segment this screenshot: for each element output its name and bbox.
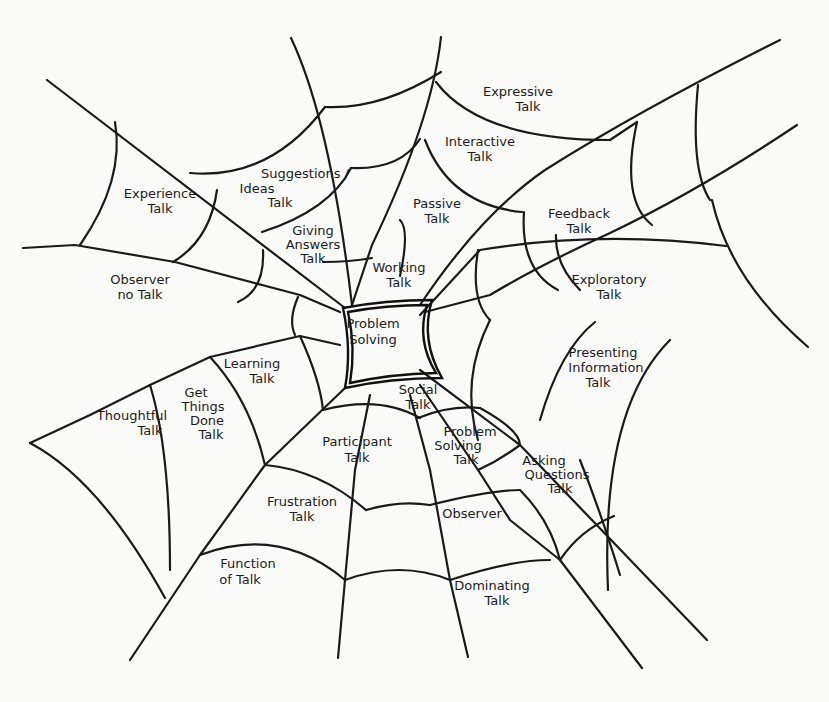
label-experience-talk: ExperienceTalk — [124, 186, 197, 216]
label-get-things-done-talk: GetThingsDoneTalk — [180, 385, 224, 442]
label-working-talk: WorkingTalk — [372, 260, 425, 290]
label-problem-solving-talk: ProblemSolvingTalk — [434, 424, 496, 467]
label-frustration-talk: FrustrationTalk — [267, 494, 337, 524]
label-observer: Observer — [442, 506, 502, 521]
spider-web-diagram: ExpressiveTalk InteractiveTalk Suggestio… — [0, 0, 829, 702]
label-participant-talk: ParticipantTalk — [322, 434, 392, 465]
web-spokes — [23, 37, 797, 668]
label-presenting-information-talk: PresentingInformationTalk — [568, 345, 643, 390]
label-feedback-talk: FeedbackTalk — [548, 206, 610, 236]
label-giving-answers-talk: GivingAnswersTalk — [286, 223, 341, 266]
label-suggestions-ideas-talk: Suggestions /IdeasTalk — [240, 166, 350, 210]
region-labels: ExpressiveTalk InteractiveTalk Suggestio… — [96, 84, 647, 608]
label-learning-talk: LearningTalk — [224, 356, 280, 386]
label-exploratory-talk: ExploratoryTalk — [571, 272, 646, 302]
label-function-of-talk: Functionof Talk — [219, 556, 275, 587]
web-rings — [30, 72, 808, 598]
label-expressive-talk: ExpressiveTalk — [483, 84, 553, 114]
label-observer-no-talk: Observerno Talk — [110, 272, 170, 302]
label-interactive-talk: InteractiveTalk — [445, 134, 515, 164]
label-social-talk: SocialTalk — [399, 382, 438, 412]
label-thoughtful-talk: ThoughtfulTalk — [96, 408, 167, 438]
label-center-problem-solving: ProblemSolving — [346, 316, 399, 347]
web-drawing: ExpressiveTalk InteractiveTalk Suggestio… — [0, 0, 829, 702]
label-passive-talk: PassiveTalk — [413, 196, 461, 226]
label-dominating-talk: DominatingTalk — [454, 578, 530, 608]
